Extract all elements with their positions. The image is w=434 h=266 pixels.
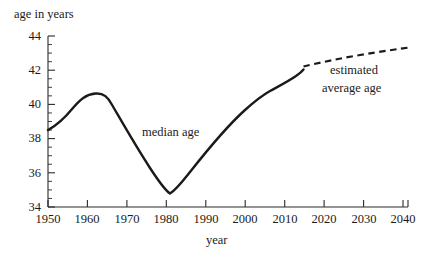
- y-tick-label-38: 38: [20, 132, 41, 145]
- x-tick-label-2010: 2010: [266, 213, 304, 226]
- annotation-estimated-average-age-line2: average age: [322, 82, 381, 95]
- annotation-estimated-average-age-line1: estimated: [330, 64, 378, 77]
- y-tick-label-44: 44: [20, 30, 41, 43]
- y-tick-label-36: 36: [20, 167, 41, 180]
- x-tick-label-1970: 1970: [108, 213, 146, 226]
- x-tick-label-2040: 2040: [384, 213, 422, 226]
- y-tick-label-40: 40: [20, 98, 41, 111]
- x-tick-label-1960: 1960: [68, 213, 106, 226]
- x-axis-ticks: [48, 200, 408, 207]
- x-axis-title: year: [206, 234, 228, 247]
- y-axis-minor-ticks: [48, 45, 52, 199]
- annotation-median-age: median age: [142, 126, 199, 139]
- y-axis-title: age in years: [14, 8, 74, 21]
- y-tick-label-42: 42: [20, 64, 41, 77]
- x-tick-label-2000: 2000: [226, 213, 264, 226]
- x-tick-label-1990: 1990: [187, 213, 225, 226]
- x-tick-label-2030: 2030: [345, 213, 383, 226]
- chart-figure: age in years year 44 42 40 38 36 34 1950…: [0, 0, 434, 266]
- x-tick-label-2020: 2020: [305, 213, 343, 226]
- chart-canvas: [0, 0, 434, 266]
- x-tick-label-1950: 1950: [29, 213, 67, 226]
- x-tick-label-1980: 1980: [147, 213, 185, 226]
